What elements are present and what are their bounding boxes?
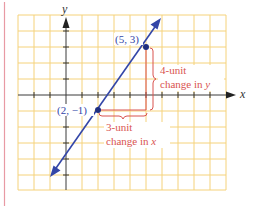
coordinate-graph-figure: x y <box>0 0 255 208</box>
slope-triangle <box>98 47 156 119</box>
y-axis-label: y <box>61 2 68 16</box>
x-axis <box>18 92 236 99</box>
point-label-5-3: (5, 3) <box>115 33 139 46</box>
x-axis-label: x <box>239 87 246 101</box>
run-brace <box>99 113 147 119</box>
graphed-line <box>50 18 161 177</box>
arrowhead-up-icon <box>151 18 162 30</box>
point-5-3 <box>143 44 149 50</box>
rise-annotation-line2: change in y <box>160 78 210 90</box>
graph-svg: x y <box>0 0 255 208</box>
rise-annotation-line1: 4-unit <box>160 64 186 76</box>
point-label-2-neg1: (2, −1) <box>57 104 87 117</box>
run-annotation-line1: 3-unit <box>106 121 132 133</box>
point-2-neg1 <box>95 107 101 113</box>
run-annotation-line2: change in x <box>106 135 156 147</box>
